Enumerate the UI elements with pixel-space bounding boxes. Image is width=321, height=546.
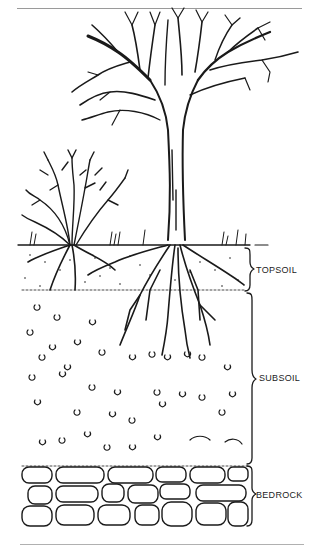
topsoil-texture [24, 254, 239, 287]
bedrock-label: BEDROCK [256, 490, 303, 500]
bottom-divider [20, 544, 304, 545]
shrub-illustration [22, 150, 128, 245]
bedrock-stones [22, 466, 250, 526]
ground-surface [18, 230, 268, 245]
tree-illustration [72, 8, 298, 240]
subsoil-label: SUBSOIL [259, 373, 300, 383]
subsoil-pebbles [27, 305, 242, 450]
layer-braces [245, 248, 256, 526]
roots [28, 245, 244, 358]
topsoil-label: TOPSOIL [256, 265, 297, 275]
